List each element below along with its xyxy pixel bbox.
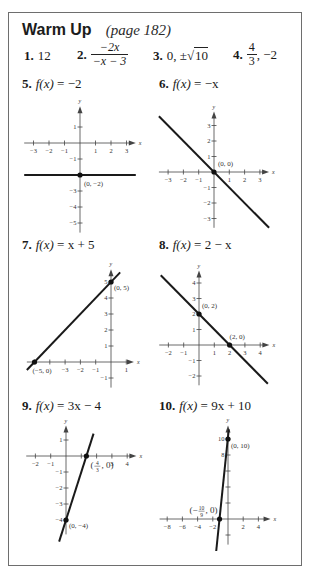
y-axis-label: y bbox=[226, 417, 230, 423]
y-tick-label: 10 bbox=[218, 435, 225, 442]
x-tick-label: −8 bbox=[164, 523, 171, 530]
x-tick-label: 4 bbox=[257, 523, 261, 530]
graph-10-plot: xy−8−6−4−224810(−109, 0)(0, 10) bbox=[0, 0, 309, 578]
point-marker bbox=[225, 436, 230, 441]
svg-text:9: 9 bbox=[200, 512, 203, 518]
point-marker bbox=[217, 516, 222, 521]
y-tick-label: 8 bbox=[221, 451, 224, 458]
x-tick-label: −2 bbox=[209, 523, 216, 530]
point-label: (−109, 0) bbox=[190, 505, 218, 518]
svg-text:, 0): , 0) bbox=[206, 505, 218, 515]
point-label: (0, 10) bbox=[231, 442, 250, 450]
x-tick-label: −4 bbox=[194, 523, 202, 530]
svg-text:(−: (− bbox=[190, 505, 198, 515]
x-axis-arrow-icon bbox=[264, 517, 271, 522]
x-tick-label: 2 bbox=[242, 523, 245, 530]
x-axis-label: x bbox=[273, 516, 277, 522]
x-tick-label: −6 bbox=[179, 523, 187, 530]
svg-text:10: 10 bbox=[199, 505, 205, 511]
function-line bbox=[216, 429, 229, 551]
